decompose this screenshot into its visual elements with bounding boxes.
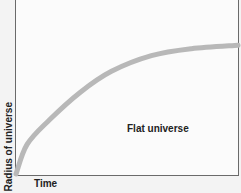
x-axis-label: Time (34, 178, 57, 189)
flat-universe-curve (0, 0, 241, 193)
chart: Radius of universe Time Flat universe (0, 0, 241, 193)
y-axis-label: Radius of universe (3, 82, 14, 192)
flat-universe-annotation: Flat universe (127, 123, 189, 134)
